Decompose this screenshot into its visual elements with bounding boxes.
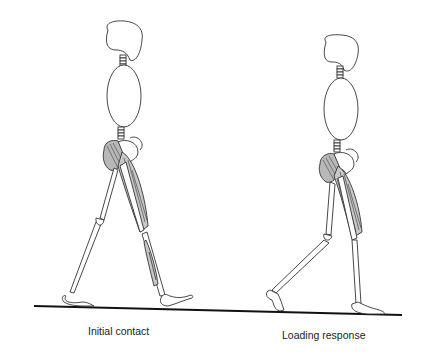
caption-initial-contact: Initial contact xyxy=(88,325,149,337)
figure-loading-response xyxy=(266,35,384,314)
lumbar-spine xyxy=(334,140,340,152)
caption-loading-response: Loading response xyxy=(282,329,365,341)
leading-foot xyxy=(352,302,385,314)
trailing-foot xyxy=(62,295,94,306)
leading-shin-bone xyxy=(352,240,361,304)
trailing-foot xyxy=(266,290,284,311)
ground-line xyxy=(34,306,402,315)
gait-diagram xyxy=(0,0,424,359)
trailing-thigh-bone xyxy=(100,168,118,220)
thorax xyxy=(324,78,358,140)
leading-foot xyxy=(160,295,192,307)
cervical-spine xyxy=(337,66,343,78)
trailing-shin-bone xyxy=(70,222,101,293)
lumbar-spine xyxy=(118,127,124,139)
figure-initial-contact xyxy=(62,21,192,306)
trailing-thigh-bone xyxy=(326,182,335,235)
trailing-shin-bone xyxy=(272,240,329,293)
thorax xyxy=(107,65,141,127)
